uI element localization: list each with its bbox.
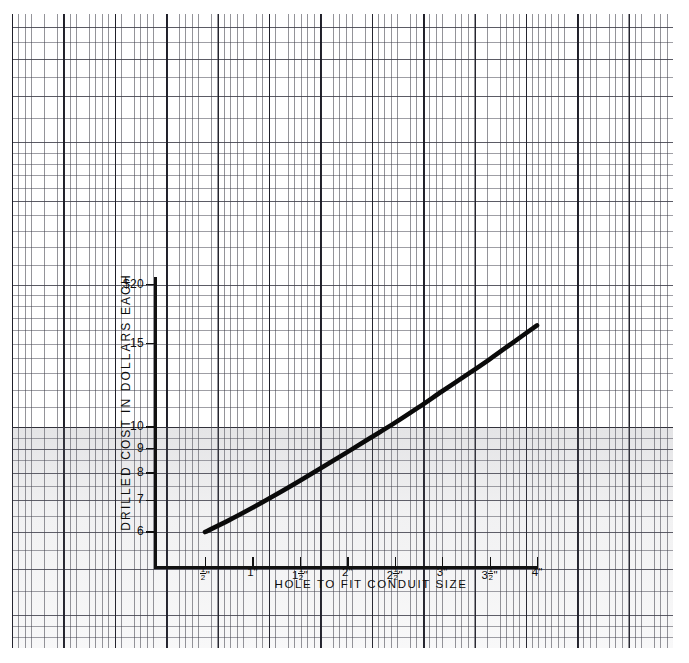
x-tick-label: 4" xyxy=(511,566,563,578)
y-tick-mark xyxy=(146,343,155,345)
y-tick-mark xyxy=(146,472,155,474)
x-tick-mark xyxy=(347,557,348,566)
chart-page: $2015109876 12"1"112"2"212"3"312"4" DRIL… xyxy=(0,0,689,663)
x-tick-label: 2" xyxy=(321,566,373,578)
x-tick-mark xyxy=(252,557,253,566)
y-tick-mark xyxy=(146,500,155,502)
x-tick-mark xyxy=(442,557,443,566)
graph-paper-grid xyxy=(12,14,673,648)
x-tick-mark xyxy=(205,557,206,566)
y-axis-line xyxy=(154,277,157,569)
x-tick-label: 1" xyxy=(226,566,278,578)
y-tick-mark xyxy=(146,426,155,428)
y-tick-mark xyxy=(146,448,155,450)
graph-paper-sheet: $2015109876 12"1"112"2"212"3"312"4" DRIL… xyxy=(0,0,689,663)
y-tick-mark xyxy=(146,531,155,533)
x-tick-mark xyxy=(537,557,538,566)
y-axis-title: DRILLED COST IN DOLLARS EACH xyxy=(119,262,133,542)
vertical-major-gridlines xyxy=(12,14,673,648)
x-tick-label: 3" xyxy=(416,566,468,578)
x-axis-title: HOLE TO FIT CONDUIT SIZE xyxy=(196,578,546,590)
y-tick-mark xyxy=(146,284,155,286)
